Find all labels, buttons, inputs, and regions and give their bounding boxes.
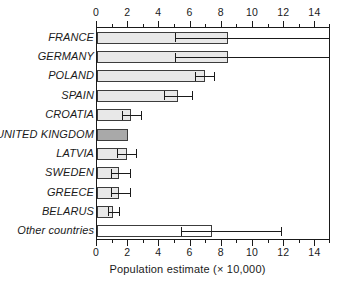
error-cap-high-sweden	[130, 169, 131, 178]
axis-tick-minor-7	[205, 240, 206, 243]
error-cap-high-spain	[192, 91, 193, 100]
x-tick-label-2: 2	[124, 246, 130, 258]
x-tick-label-0: 0	[93, 6, 99, 18]
error-cap-low-poland	[195, 72, 196, 81]
x-axis-title: Population estimate (× 10,000)	[0, 263, 345, 275]
error-bar-sweden	[111, 173, 130, 174]
error-cap-low-other-countries	[181, 227, 182, 236]
error-cap-low-latvia	[117, 149, 118, 158]
error-bar-croatia	[122, 115, 141, 116]
error-cap-high-belarus	[119, 207, 120, 216]
category-label-sweden: SWEDEN	[45, 166, 94, 178]
axis-tick-minor-13	[299, 240, 300, 243]
bar-united-kingdom	[97, 129, 128, 141]
category-label-croatia: CROATIA	[45, 108, 94, 120]
error-bar-germany	[175, 57, 330, 58]
error-bar-france	[175, 38, 330, 39]
error-cap-low-belarus	[108, 207, 109, 216]
x-tick-label-6: 6	[187, 246, 193, 258]
x-tick-label-2: 2	[124, 6, 130, 18]
axis-tick-minor-11	[268, 240, 269, 243]
error-cap-high-latvia	[136, 149, 137, 158]
category-label-spain: SPAIN	[61, 89, 94, 101]
error-bar-latvia	[117, 154, 136, 155]
category-label-latvia: LATVIA	[56, 147, 94, 159]
axis-tick-minor-15	[329, 240, 330, 243]
x-tick-label-14: 14	[308, 6, 320, 18]
axis-tick-minor-1	[112, 240, 113, 243]
error-cap-high-croatia	[141, 111, 142, 120]
axis-tick-minor-9	[236, 240, 237, 243]
x-tick-label-12: 12	[277, 6, 289, 18]
x-tick-label-10: 10	[246, 6, 258, 18]
error-bar-greece	[111, 193, 130, 194]
error-bar-poland	[195, 76, 214, 77]
error-cap-high-other-countries	[281, 227, 282, 236]
error-bar-belarus	[108, 212, 119, 213]
error-cap-low-germany	[175, 53, 176, 62]
x-tick-label-10: 10	[246, 246, 258, 258]
category-label-column: FRANCEGERMANYPOLANDSPAINCROATIAUNITED KI…	[1, 28, 94, 241]
x-tick-label-14: 14	[308, 246, 320, 258]
category-label-poland: POLAND	[48, 69, 94, 81]
x-tick-label-4: 4	[155, 246, 161, 258]
category-label-united-kingdom: UNITED KINGDOM	[0, 128, 94, 140]
error-cap-low-sweden	[111, 169, 112, 178]
bar-poland	[97, 70, 205, 82]
axis-tick-minor-3	[143, 240, 144, 243]
error-cap-low-spain	[164, 91, 165, 100]
chart-figure: 02468101214 FRANCEGERMANYPOLANDSPAINCROA…	[0, 0, 345, 285]
error-cap-low-greece	[111, 188, 112, 197]
x-tick-label-12: 12	[277, 246, 289, 258]
category-label-germany: GERMANY	[38, 50, 94, 62]
plot-area: FRANCEGERMANYPOLANDSPAINCROATIAUNITED KI…	[96, 27, 330, 240]
x-axis-title-text: Population estimate (× 10,000)	[79, 263, 265, 275]
top-axis-ticks	[96, 21, 330, 22]
x-tick-label-6: 6	[187, 6, 193, 18]
x-tick-label-4: 4	[155, 6, 161, 18]
error-cap-low-croatia	[122, 111, 123, 120]
x-tick-label-8: 8	[218, 6, 224, 18]
bottom-axis-ticks	[96, 240, 330, 241]
category-label-belarus: BELARUS	[42, 205, 94, 217]
category-label-greece: GREECE	[47, 186, 94, 198]
x-tick-label-0: 0	[93, 246, 99, 258]
error-cap-low-france	[175, 33, 176, 42]
x-tick-label-8: 8	[218, 246, 224, 258]
error-bar-spain	[164, 96, 192, 97]
error-bar-other-countries	[181, 231, 281, 232]
error-cap-high-poland	[214, 72, 215, 81]
category-label-other-countries: Other countries	[17, 224, 94, 236]
axis-tick-minor-5	[174, 240, 175, 243]
error-cap-high-greece	[130, 188, 131, 197]
category-label-france: FRANCE	[48, 31, 94, 43]
